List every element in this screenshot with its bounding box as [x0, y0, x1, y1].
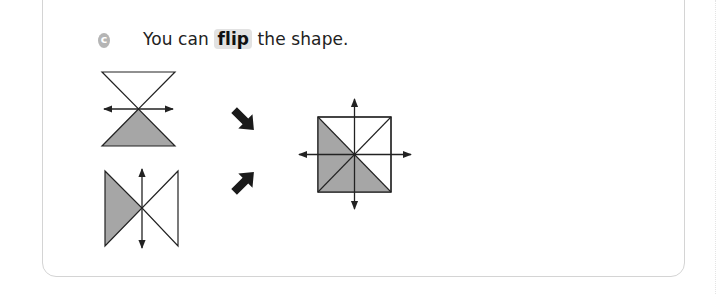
arrow-up-right-icon	[227, 165, 261, 199]
result-square	[299, 99, 411, 209]
arrow-down-right-icon	[227, 103, 261, 137]
bowtie-right-triangle	[142, 171, 178, 246]
hourglass-bottom-triangle	[102, 109, 175, 146]
hourglass-shape	[102, 72, 175, 146]
bowtie-left-triangle	[105, 171, 142, 246]
bowtie-shape	[105, 169, 178, 248]
hourglass-top-triangle	[102, 72, 175, 109]
figures-canvas	[0, 0, 722, 294]
